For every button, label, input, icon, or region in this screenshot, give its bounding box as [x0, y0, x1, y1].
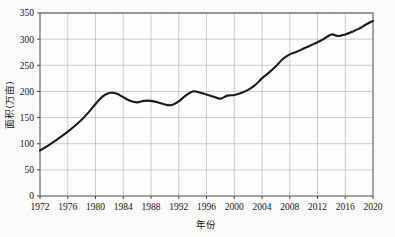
x-tick-label: 2012	[308, 202, 327, 212]
x-tick-label: 1972	[31, 202, 50, 212]
y-axis-tick-labels: 050100150200250300350	[20, 8, 35, 201]
x-tick-label: 1988	[142, 202, 161, 212]
x-tick-label: 2020	[364, 202, 383, 212]
y-tick-label: 300	[20, 35, 35, 45]
y-tick-label: 250	[20, 61, 35, 71]
y-tick-label: 150	[20, 113, 35, 123]
x-tick-label: 1976	[58, 202, 77, 212]
y-tick-label: 100	[20, 139, 35, 149]
x-tick-label: 1996	[197, 202, 216, 212]
x-axis-tick-labels: 1972197619801984198819921996200020042008…	[31, 202, 383, 212]
x-tick-label: 2004	[253, 202, 272, 212]
y-tick-label: 0	[29, 191, 34, 201]
y-tick-label: 50	[25, 165, 35, 175]
x-tick-label: 1980	[86, 202, 105, 212]
x-axis-title: 年份	[196, 219, 216, 230]
x-tick-label: 2008	[280, 202, 299, 212]
x-tick-label: 1992	[169, 202, 188, 212]
x-tick-label: 2016	[336, 202, 355, 212]
y-tick-label: 350	[20, 8, 35, 18]
x-tick-label: 2000	[225, 202, 244, 212]
y-axis-title: 面积(万亩)	[4, 81, 15, 128]
y-tick-label: 200	[20, 87, 35, 97]
area-trend-line-chart: 050100150200250300350 197219761980198419…	[0, 0, 395, 237]
chart-canvas: 050100150200250300350 197219761980198419…	[0, 0, 395, 237]
x-tick-label: 1984	[114, 202, 133, 212]
